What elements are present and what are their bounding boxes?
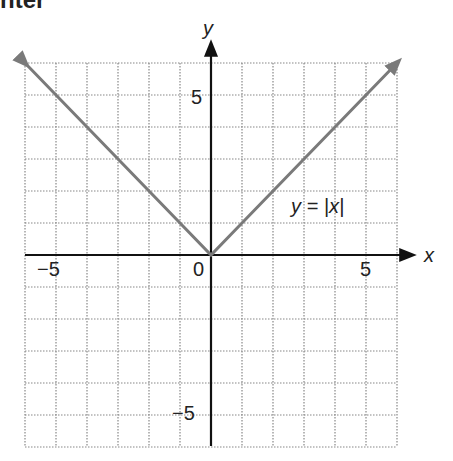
y-axis-label: y (201, 17, 214, 39)
origin-tick: 0 (193, 258, 204, 280)
x-axis-label: x (423, 244, 435, 266)
x-tick-neg5: −5 (37, 258, 60, 280)
x-tick-5: 5 (360, 258, 371, 280)
curve-label: y = |x| (289, 195, 344, 217)
y-tick-5: 5 (191, 86, 202, 108)
graph-plot: x y −5 0 5 5 −5 y = |x| (0, 0, 453, 461)
y-tick-neg5: −5 (172, 402, 195, 424)
